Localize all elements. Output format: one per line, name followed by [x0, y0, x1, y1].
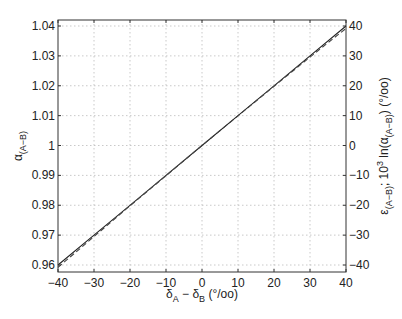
y-left-tick-label: 1.02	[32, 79, 56, 93]
y-left-tick-label: 0.97	[32, 228, 56, 242]
y-left-tick-label: 0.96	[32, 258, 56, 272]
y-right-tick-label: −10	[349, 168, 370, 182]
y-right-tick-label: −30	[349, 228, 370, 242]
y-left-tick-label: 0.99	[32, 168, 56, 182]
y-left-tick-label: 1.01	[32, 109, 56, 123]
y-right-tick-label: 20	[349, 79, 363, 93]
y-right-tick-label: 30	[349, 49, 363, 63]
y-right-tick-label: 10	[349, 109, 363, 123]
y-left-tick-label: 1.04	[32, 19, 56, 33]
y-left-tick-label: 0.98	[32, 198, 56, 212]
y-right-axis-ticks: −40−30−20−10010203040	[343, 19, 370, 272]
x-tick-label: 40	[339, 276, 353, 290]
y-right-tick-label: −40	[349, 258, 370, 272]
y-left-axis-label: α(A−B)	[11, 131, 28, 161]
x-tick-label: −40	[48, 276, 69, 290]
chart: −40−30−20−10010203040 0.960.970.980.9911…	[0, 0, 402, 319]
y-left-tick-label: 1	[48, 139, 55, 153]
x-tick-label: −30	[84, 276, 105, 290]
y-left-axis-ticks: 0.960.970.980.9911.011.021.031.04	[32, 19, 61, 272]
y-right-tick-label: 40	[349, 19, 363, 33]
x-axis-ticks: −40−30−20−10010203040	[48, 20, 353, 290]
x-tick-label: −20	[120, 276, 141, 290]
y-left-tick-label: 1.03	[32, 49, 56, 63]
x-tick-label: 30	[303, 276, 317, 290]
y-right-tick-label: 0	[349, 139, 356, 153]
y-right-tick-label: −20	[349, 198, 370, 212]
y-right-axis-label: ε(A−B); 103 ln(α(A−B)) (°/oo)	[375, 77, 394, 214]
data-series	[58, 26, 346, 267]
x-tick-label: 20	[267, 276, 281, 290]
